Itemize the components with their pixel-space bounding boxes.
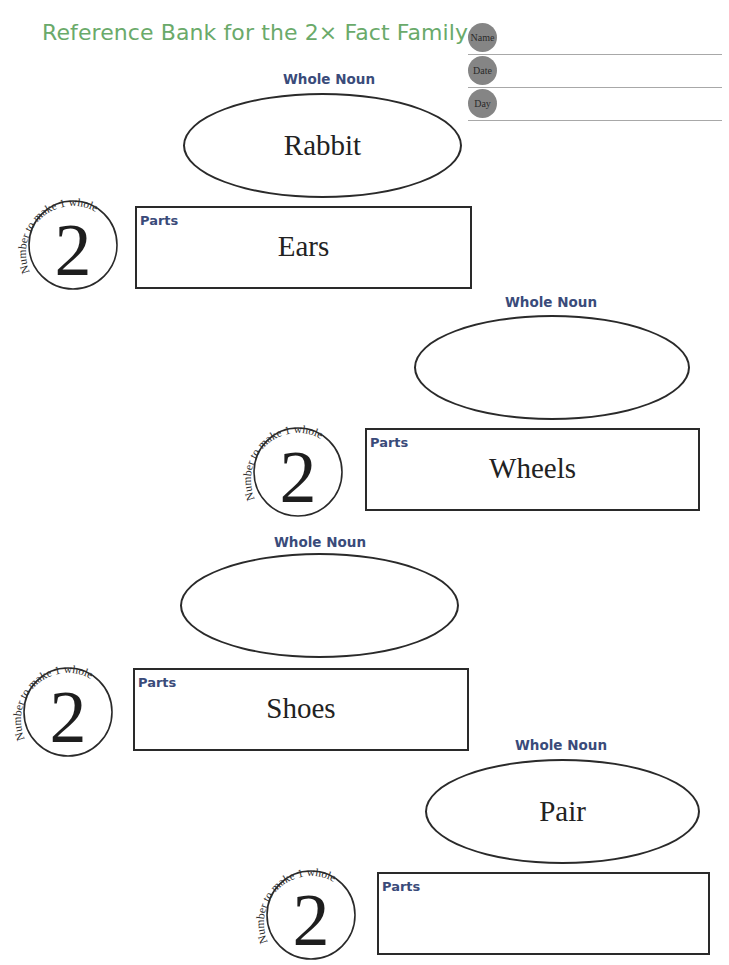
name-label: Name xyxy=(468,23,497,52)
day-label: Day xyxy=(468,89,497,118)
number-value: 2 xyxy=(280,436,317,518)
number-value: 2 xyxy=(293,879,330,961)
date-field[interactable]: Date xyxy=(468,55,722,88)
day-field[interactable]: Day xyxy=(468,88,722,121)
parts-label: Parts xyxy=(370,435,408,450)
number-circle: Number to make 1 whole 2 xyxy=(16,188,130,302)
parts-value: Ears xyxy=(137,230,470,263)
parts-label: Parts xyxy=(382,879,420,894)
whole-noun-label: Whole Noun xyxy=(505,294,597,310)
parts-box[interactable]: Parts Shoes xyxy=(133,668,469,751)
number-circle: Number to make 1 whole 2 xyxy=(241,415,355,529)
whole-noun-ellipse[interactable]: Pair xyxy=(425,759,700,864)
number-value: 2 xyxy=(50,676,87,758)
whole-noun-label: Whole Noun xyxy=(515,737,607,753)
page-title: Reference Bank for the 2× Fact Family xyxy=(42,20,468,45)
parts-value: Shoes xyxy=(135,692,467,725)
parts-box[interactable]: Parts Ears xyxy=(135,206,472,289)
whole-noun-ellipse[interactable]: Rabbit xyxy=(183,93,462,198)
number-circle: Number to make 1 whole 2 xyxy=(11,655,125,769)
name-field[interactable]: Name xyxy=(468,22,722,55)
whole-noun-label: Whole Noun xyxy=(283,71,375,87)
whole-noun-value: Rabbit xyxy=(284,129,361,162)
parts-label: Parts xyxy=(140,213,178,228)
parts-box[interactable]: Parts xyxy=(377,872,710,955)
parts-value: Wheels xyxy=(367,452,698,485)
whole-noun-value: Pair xyxy=(539,795,586,828)
parts-box[interactable]: Parts Wheels xyxy=(365,428,700,511)
whole-noun-ellipse[interactable] xyxy=(180,553,459,658)
whole-noun-label: Whole Noun xyxy=(274,534,366,550)
number-circle: Number to make 1 whole 2 xyxy=(254,858,368,965)
number-value: 2 xyxy=(55,209,92,291)
whole-noun-ellipse[interactable] xyxy=(414,315,690,420)
date-label: Date xyxy=(468,56,497,85)
parts-label: Parts xyxy=(138,675,176,690)
